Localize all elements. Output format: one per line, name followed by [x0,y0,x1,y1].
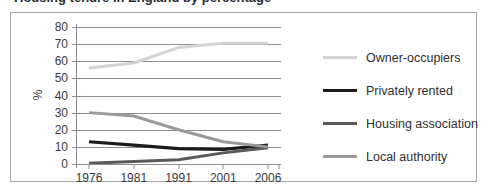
x-axis-line [76,164,279,165]
x-axis-label: 2001 [210,171,237,185]
x-axis-label: 2006 [255,171,282,185]
y-axis-label: 0 [44,157,68,171]
y-axis-label: 40 [44,89,68,103]
legend-item[interactable]: Privately rented [323,74,483,107]
clipped-chart-title: Housing tenure in England by percentage [14,0,314,5]
legend-item[interactable]: Housing association [323,107,483,140]
x-axis-label: 1981 [120,171,147,185]
y-axis-label: 80 [44,20,68,34]
y-axis-label: 20 [44,123,68,137]
legend-item-label: Housing association [366,117,478,131]
y-axis-label: 50 [44,71,68,85]
x-axis-label: 1976 [76,171,103,185]
chart-figure: % 01020304050607080 19761981199120012006… [10,12,477,182]
chart-legend: Owner-occupiersPrivately rentedHousing a… [323,41,483,173]
legend-item[interactable]: Owner-occupiers [323,41,483,74]
series-line [89,43,268,68]
x-axis: 19761981199120012006 [76,164,281,194]
y-axis-label: 10 [44,140,68,154]
legend-swatch-line-icon [323,155,357,158]
series-lines [76,27,281,164]
legend-swatch-line-icon [323,89,357,92]
legend-swatch-line-icon [323,56,357,59]
legend-item-label: Local authority [366,150,447,164]
y-axis-label: 30 [44,106,68,120]
series-line [89,113,268,147]
plot-area: 01020304050607080 [76,27,281,164]
legend-swatch-line-icon [323,122,357,125]
y-axis-label: 60 [44,54,68,68]
y-axis-label: 70 [44,37,68,51]
x-axis-label: 1991 [165,171,192,185]
legend-item-label: Owner-occupiers [366,51,460,65]
legend-item[interactable]: Local authority [323,140,483,173]
legend-item-label: Privately rented [366,84,453,98]
